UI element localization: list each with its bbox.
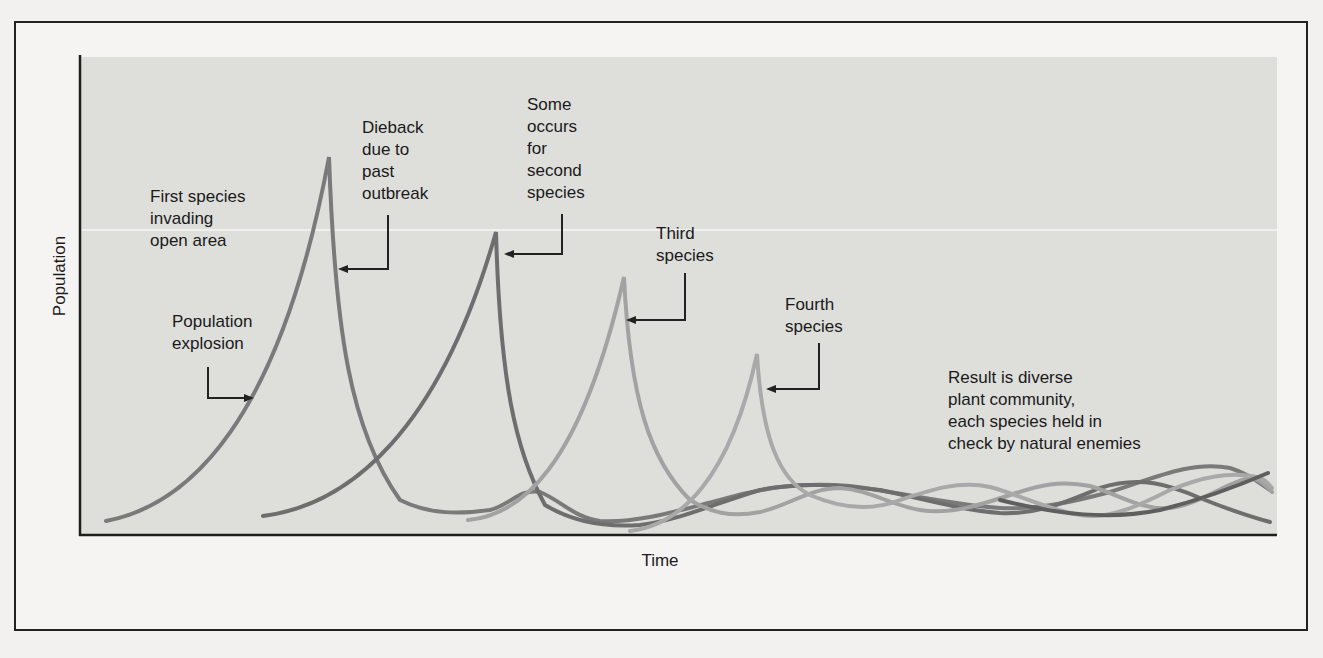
annotation-third-species: Third species <box>656 223 714 267</box>
annotation-second-species: Some occurs for second species <box>527 94 585 204</box>
arrow-third-species <box>634 273 685 320</box>
arrowhead-icon <box>338 265 348 273</box>
y-axis-label: Population <box>50 226 70 326</box>
arrow-dieback <box>346 215 388 269</box>
x-axis-label: Time <box>610 551 710 571</box>
arrow-second-species <box>512 214 562 254</box>
annotation-first-species: First species invading open area <box>150 186 245 252</box>
annotation-dieback: Dieback due to past outbreak <box>362 117 428 205</box>
annotation-result: Result is diverse plant community, each … <box>948 367 1141 455</box>
annotation-fourth-species: Fourth species <box>785 294 843 338</box>
annotation-population-explosion: Population explosion <box>172 311 252 355</box>
arrowhead-icon <box>504 250 514 258</box>
arrow-population-explosion <box>208 367 246 398</box>
series-first-species <box>106 157 1270 521</box>
arrowhead-icon <box>766 385 776 393</box>
arrow-fourth-species <box>774 343 819 389</box>
